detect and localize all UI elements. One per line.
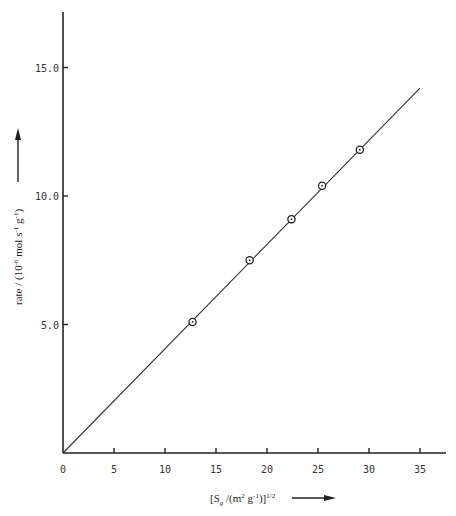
- data-point: [189, 318, 196, 325]
- data-point: [246, 257, 253, 264]
- data-point: [288, 216, 295, 223]
- y-tick-label: 15.0: [35, 63, 59, 74]
- x-axis-title: [Sg /(m2 g-1)]1/2: [210, 492, 276, 507]
- axes: [63, 12, 446, 453]
- x-tick-label: 0: [60, 464, 66, 475]
- fit-line-path: [63, 88, 420, 453]
- arrow-up-icon: [15, 128, 21, 182]
- data-point: [318, 182, 325, 189]
- arrow-right-icon: [292, 495, 336, 501]
- x-ticks: 05101520253035: [60, 448, 426, 475]
- chart: 05101520253035 5.010.015.0 rate / (10-6 …: [0, 0, 456, 516]
- y-tick-label: 5.0: [41, 320, 59, 331]
- x-tick-label: 25: [312, 464, 324, 475]
- data-point: [356, 146, 363, 153]
- y-axis-title: rate / (10-6 mol s-1 g-1): [12, 209, 25, 305]
- x-tick-label: 10: [159, 464, 171, 475]
- y-tick-label: 10.0: [35, 191, 59, 202]
- x-tick-label: 5: [111, 464, 117, 475]
- fit-line: [63, 88, 420, 453]
- x-tick-label: 20: [261, 464, 273, 475]
- x-tick-label: 15: [210, 464, 222, 475]
- x-tick-label: 30: [363, 464, 375, 475]
- x-tick-label: 35: [414, 464, 426, 475]
